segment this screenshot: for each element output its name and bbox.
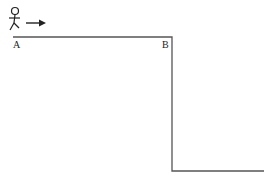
cliff-path xyxy=(13,37,264,171)
right-arrow-icon xyxy=(26,20,46,27)
stick-figure-icon xyxy=(9,8,20,31)
cliff-diagram xyxy=(0,0,265,176)
point-b-label: B xyxy=(162,39,169,50)
point-a-label: A xyxy=(13,39,20,50)
